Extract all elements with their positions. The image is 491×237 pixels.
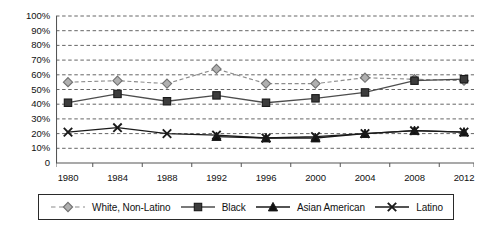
plot-area [56,12,474,167]
legend-label: Latino [416,202,443,213]
y-tick-label: 100% [2,11,50,21]
y-tick-label: 50% [2,85,50,95]
data-point-diamond [311,79,320,88]
data-point-square [411,77,418,84]
chart-legend: White, Non-LatinoBlackAsian AmericanLati… [38,194,454,220]
data-point-diamond [162,79,171,88]
data-point-square [194,203,201,210]
legend-label: Asian American [297,202,365,213]
x-tick-label: 1996 [243,172,289,183]
data-point-square [64,99,71,106]
data-point-diamond [64,202,73,211]
y-tick-label: 70% [2,55,50,65]
chart-root: 100%90%80%70%60%50%40%30%20%10%0 1980198… [0,0,491,237]
data-point-diamond [63,78,72,87]
y-tick-label: 40% [2,99,50,109]
x-tick-label: 1992 [194,172,240,183]
x-tick-label: 2000 [293,172,339,183]
series-0 [63,64,468,88]
y-tick-label: 90% [2,26,50,36]
data-point-diamond [212,64,221,73]
x-tick-label: 1988 [144,172,190,183]
x-axis: 198019841988199219962000200420082012 [56,172,474,188]
data-point-square [213,92,220,99]
data-point-square [114,90,121,97]
data-point-diamond [261,79,270,88]
legend-items: White, Non-LatinoBlackAsian AmericanLati… [39,195,453,219]
x-tick-label: 2004 [342,172,388,183]
legend-swatch-x-icon [373,200,411,214]
legend-item-latino[interactable]: Latino [373,200,443,214]
y-tick-label: 0 [2,158,50,168]
data-point-diamond [113,76,122,85]
legend-swatch-triangle-icon [254,200,292,214]
y-tick-label: 80% [2,40,50,50]
legend-item-black[interactable]: Black [179,200,246,214]
legend-item-asian-american[interactable]: Asian American [254,200,365,214]
chart-canvas [56,12,474,167]
data-point-square [163,98,170,105]
legend-swatch-diamond-icon [49,200,87,214]
legend-item-white-non-latino[interactable]: White, Non-Latino [49,200,170,214]
x-tick-label: 2008 [392,172,438,183]
data-point-square [312,95,319,102]
y-tick-label: 20% [2,129,50,139]
y-tick-label: 30% [2,114,50,124]
data-point-square [262,99,269,106]
y-tick-label: 10% [2,143,50,153]
legend-swatch-square-icon [179,200,217,214]
x-tick-label: 1980 [45,172,91,183]
data-point-square [460,76,467,83]
x-tick-label: 2012 [441,172,487,183]
y-axis: 100%90%80%70%60%50%40%30%20%10%0 [0,12,50,167]
data-point-square [361,89,368,96]
legend-label: Black [222,202,246,213]
y-tick-label: 60% [2,70,50,80]
legend-label: White, Non-Latino [92,202,170,213]
x-tick-label: 1984 [95,172,141,183]
